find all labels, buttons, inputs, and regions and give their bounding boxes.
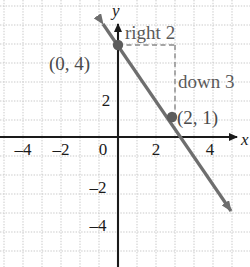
point-label-second-point: (2, 1) [177,108,218,127]
x-tick-label-neg4: –4 [6,141,40,158]
annotation-right-2: right 2 [125,23,175,42]
point-second [167,112,177,122]
coordinate-plane-figure: y x –4 –2 0 2 4 2 –2 –4 (0, 4) (2, 1) ri… [0,0,250,267]
x-tick-label-4: 4 [202,141,218,158]
x-tick-label-zero: 0 [95,141,111,158]
point-label-y-intercept: (0, 4) [49,54,90,73]
y-tick-label-neg2: –2 [82,179,114,196]
y-tick-label-2: 2 [98,92,114,109]
y-axis-label: y [112,2,120,19]
x-tick-label-neg2: –2 [44,141,78,158]
annotation-down-3: down 3 [178,72,234,91]
y-tick-label-neg4: –4 [82,217,114,234]
x-axis-label: x [241,131,249,148]
x-tick-label-2: 2 [148,141,164,158]
point-y-intercept [113,40,123,50]
